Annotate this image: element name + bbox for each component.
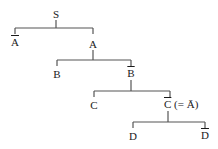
node-label: S — [53, 8, 59, 20]
tree-node-S: S — [53, 8, 59, 20]
tree-node-D: D — [129, 130, 137, 142]
node-label: A — [89, 38, 97, 50]
node-label: B — [127, 67, 134, 79]
tree-diagram — [0, 0, 218, 149]
tree-node-Cbar: C (= Ā) — [164, 98, 198, 110]
tree-node-C: C — [90, 99, 97, 111]
node-annotation: (= Ā) — [171, 98, 198, 110]
node-label: D — [201, 129, 209, 141]
node-label: C — [90, 99, 97, 111]
node-label: A — [11, 36, 19, 48]
node-label: B — [53, 68, 60, 80]
tree-node-Abar: A — [11, 36, 19, 48]
tree-node-A: A — [89, 38, 97, 50]
tree-node-Dbar: D — [201, 129, 209, 141]
tree-node-Bbar: B — [127, 67, 134, 79]
node-label: D — [129, 130, 137, 142]
tree-node-B: B — [53, 68, 60, 80]
